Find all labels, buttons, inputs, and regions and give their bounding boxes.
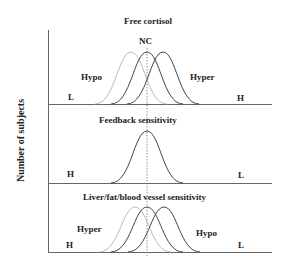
curve-hyper [127,52,199,104]
panel1-left-group: Hypo [81,73,102,82]
curve-hyper-sens [99,207,171,252]
nc-label: NC [139,37,152,46]
panel1-left-end: L [68,93,74,102]
panel3-right-group: Hypo [196,229,217,238]
panel1-right-end: H [237,94,244,103]
y-axis-label: Number of subjects [15,81,26,201]
panel1-title: Free cortisol [124,17,172,26]
panel3-title: Liver/fat/blood vessel sensitivity [83,193,206,202]
curve-hypo [95,52,167,104]
panel2-left-end: H [67,170,74,179]
panel2-right-end: L [238,171,244,180]
panel1-right-group: Hyper [190,73,215,82]
panel3-left-end: H [66,241,73,250]
panel3-right-end: L [238,241,244,250]
panel2-title: Feedback sensitivity [99,116,177,125]
panel3-left-group: Hyper [77,225,102,234]
